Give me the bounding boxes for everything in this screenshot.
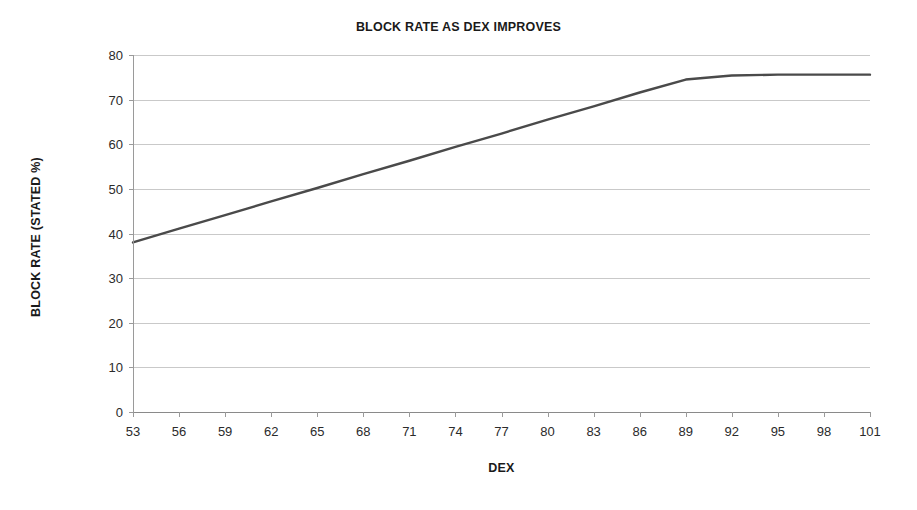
x-tick-label: 59 — [203, 424, 247, 439]
x-tick-mark — [271, 412, 272, 417]
y-tick-label: 10 — [83, 360, 123, 375]
x-tick-label: 83 — [572, 424, 616, 439]
x-tick-mark — [548, 412, 549, 417]
data-line-series — [133, 55, 870, 412]
x-tick-label: 71 — [387, 424, 431, 439]
y-tick-label: 0 — [83, 405, 123, 420]
x-tick-label: 89 — [664, 424, 708, 439]
y-tick-mark — [129, 234, 134, 235]
x-tick-label: 98 — [802, 424, 846, 439]
y-tick-label: 50 — [83, 181, 123, 196]
x-tick-label: 101 — [848, 424, 892, 439]
x-tick-label: 95 — [756, 424, 800, 439]
x-tick-label: 62 — [249, 424, 293, 439]
x-tick-label: 65 — [295, 424, 339, 439]
y-tick-mark — [129, 278, 134, 279]
x-tick-mark — [502, 412, 503, 417]
x-tick-label: 77 — [480, 424, 524, 439]
x-axis-tick-labels: 53565962656871747780838689929598101 — [133, 424, 870, 444]
y-tick-mark — [129, 367, 134, 368]
x-tick-mark — [640, 412, 641, 417]
y-tick-label: 40 — [83, 226, 123, 241]
x-tick-mark — [317, 412, 318, 417]
y-tick-mark — [129, 323, 134, 324]
x-tick-label: 80 — [526, 424, 570, 439]
chart-title: BLOCK RATE AS DEX IMPROVES — [0, 20, 917, 34]
x-tick-mark — [870, 412, 871, 417]
x-tick-label: 92 — [710, 424, 754, 439]
x-tick-mark — [732, 412, 733, 417]
x-tick-label: 53 — [111, 424, 155, 439]
chart-figure: BLOCK RATE AS DEX IMPROVES BLOCK RATE (S… — [0, 0, 917, 510]
x-tick-label: 86 — [618, 424, 662, 439]
y-tick-label: 70 — [83, 92, 123, 107]
y-tick-mark — [129, 189, 134, 190]
x-tick-mark — [686, 412, 687, 417]
series-line-block-rate — [133, 75, 870, 243]
x-tick-mark — [363, 412, 364, 417]
y-tick-label: 60 — [83, 137, 123, 152]
x-tick-mark — [455, 412, 456, 417]
plot-area — [133, 55, 870, 412]
x-tick-label: 74 — [433, 424, 477, 439]
y-tick-mark — [129, 100, 134, 101]
x-axis-title: DEX — [133, 461, 870, 475]
x-tick-label: 68 — [341, 424, 385, 439]
x-axis-tick-marks — [133, 412, 870, 418]
x-tick-mark — [225, 412, 226, 417]
y-tick-mark — [129, 144, 134, 145]
x-tick-mark — [778, 412, 779, 417]
x-tick-mark — [179, 412, 180, 417]
y-axis-tick-labels: 01020304050607080 — [75, 55, 123, 412]
y-tick-label: 20 — [83, 315, 123, 330]
x-tick-mark — [409, 412, 410, 417]
y-tick-label: 80 — [83, 48, 123, 63]
x-tick-mark — [594, 412, 595, 417]
y-tick-label: 30 — [83, 271, 123, 286]
x-tick-label: 56 — [157, 424, 201, 439]
y-axis-title: BLOCK RATE (STATED %) — [29, 97, 43, 377]
x-tick-mark — [824, 412, 825, 417]
y-tick-mark — [129, 412, 134, 413]
y-tick-mark — [129, 55, 134, 56]
